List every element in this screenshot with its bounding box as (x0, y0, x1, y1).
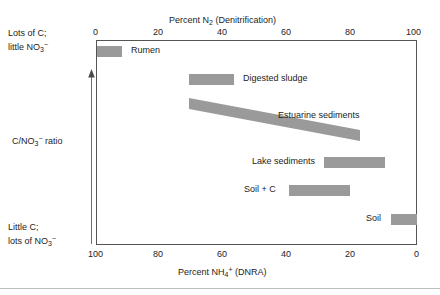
y-axis-bottom-annotation-line2: lots of NO3− (8, 233, 56, 249)
y-axis-top-annotation-line1: Lots of C; (8, 28, 48, 39)
bottom-tick-label-100: 100 (88, 249, 103, 259)
bottom-tick-label-20: 20 (345, 249, 355, 259)
figure-footer-rule (0, 288, 440, 289)
y-axis-label-prefix: C/NO (12, 136, 35, 146)
bottom-tick-label-80: 80 (153, 249, 163, 259)
bottom-axis-title: Percent NH4+ (DNRA) (178, 266, 267, 278)
figure-canvas: Percent N2 (Denitrification) 0 20 40 60 … (0, 0, 440, 295)
bottom-axis-title-suffix: (DNRA) (233, 267, 267, 277)
bar-soil (391, 214, 417, 225)
y-axis-bottom-annotation-prefix: lots of NO (8, 236, 48, 246)
y-axis-bottom-annotation-superscript: − (52, 235, 56, 242)
y-axis-label-suffix: ratio (43, 136, 63, 146)
top-tick-label-0: 0 (93, 27, 98, 37)
bar-label-estuarine-sediments: Estuarine sediments (278, 110, 360, 121)
bar-label-soil: Soil (366, 213, 381, 224)
y-axis-top-annotation-prefix: little NO (8, 42, 40, 52)
top-axis-title-prefix: Percent N (169, 15, 209, 25)
top-tick-label-80: 80 (345, 27, 355, 37)
y-axis-top-annotation-superscript: − (44, 41, 48, 48)
top-tick-label-60: 60 (281, 27, 291, 37)
bottom-tick-label-0: 0 (414, 249, 419, 259)
y-axis-bottom-annotation: Little C; lots of NO3− (8, 222, 56, 249)
bar-label-soil-plus-c: Soil + C (244, 184, 276, 195)
bar-soil-plus-c (289, 185, 350, 196)
top-tick-label-100: 100 (406, 27, 421, 37)
bottom-tick-label-40: 40 (281, 249, 291, 259)
bar-lake-sediments (324, 157, 385, 168)
top-axis-title: Percent N2 (Denitrification) (169, 15, 276, 26)
top-tick-label-20: 20 (153, 27, 163, 37)
y-axis-top-annotation-line2: little NO3− (8, 39, 48, 55)
y-axis-bottom-annotation-line1: Little C; (8, 222, 56, 233)
top-axis-title-suffix: (Denitrification) (213, 15, 276, 25)
y-axis-top-annotation: Lots of C; little NO3− (8, 28, 48, 55)
bar-label-lake-sediments: Lake sediments (252, 156, 315, 167)
bottom-axis-title-prefix: Percent NH (178, 267, 225, 277)
bottom-tick-label-60: 60 (217, 249, 227, 259)
y-axis-label: C/NO3− ratio (12, 133, 63, 149)
top-tick-label-40: 40 (217, 27, 227, 37)
